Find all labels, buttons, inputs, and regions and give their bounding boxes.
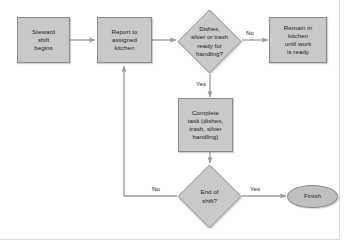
node-label: Report to assigned kitchen <box>109 28 141 53</box>
node-line: Steward <box>32 28 55 35</box>
node-label: End of shift? <box>177 164 242 229</box>
node-line: Dishes, <box>199 25 220 32</box>
node-complete-task[interactable]: Complete task (dishes, trash, silver han… <box>178 98 233 152</box>
node-label: Complete task (dishes, trash, silver han… <box>185 109 226 142</box>
node-label: Steward shift begins <box>29 28 58 53</box>
edge-label-no-ready: No <box>246 29 254 36</box>
node-line: End of <box>201 188 219 195</box>
node-label: Remain in kitchen until work is ready <box>281 24 315 57</box>
node-line: handling? <box>196 50 223 57</box>
node-line: Report to <box>112 28 138 35</box>
node-line: silver or trash <box>191 33 228 40</box>
node-line: shift <box>38 36 50 43</box>
edge-label-yes-endshift: Yes <box>250 185 260 192</box>
node-line: ready for <box>197 42 221 49</box>
node-end-of-shift-decision[interactable]: End of shift? <box>177 164 242 229</box>
connector-endshift-report <box>124 66 177 196</box>
node-line: begins <box>34 44 53 51</box>
node-line: kitchen <box>288 32 308 39</box>
node-dishes-ready-decision[interactable]: Dishes, silver or trash ready for handli… <box>177 9 242 74</box>
node-line: task (dishes, <box>188 117 223 124</box>
edge-label-yes-ready: Yes <box>196 80 206 87</box>
node-line: trash, silver <box>189 125 221 132</box>
flowchart-canvas: Steward shift begins Report to assigned … <box>0 0 348 248</box>
edge-label-no-endshift: No <box>152 185 160 192</box>
node-line: Complete <box>192 109 219 116</box>
node-label: Dishes, silver or trash ready for handli… <box>177 9 242 74</box>
node-report-to-assigned-kitchen[interactable]: Report to assigned kitchen <box>97 17 152 63</box>
node-line: Remain in <box>284 24 312 31</box>
node-line: kitchen <box>115 44 135 51</box>
node-remain-in-kitchen[interactable]: Remain in kitchen until work is ready <box>269 17 327 63</box>
node-line: assigned <box>112 36 137 43</box>
node-line: until work <box>285 40 312 47</box>
node-label: Finish <box>304 192 321 200</box>
node-line: handling) <box>193 133 219 140</box>
node-line: shift? <box>202 197 217 204</box>
node-line: is ready <box>287 48 309 55</box>
node-steward-shift-begins[interactable]: Steward shift begins <box>17 17 70 63</box>
node-finish-terminal[interactable]: Finish <box>287 185 338 208</box>
